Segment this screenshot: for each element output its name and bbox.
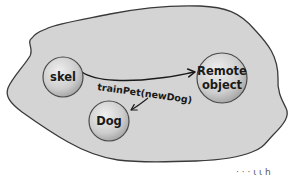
node-skel[interactable]: skel (43, 57, 83, 97)
skel-label: skel (50, 70, 76, 84)
node-dog[interactable]: Dog (89, 101, 129, 141)
cropped-caption-fragment: · · · ι ι h (236, 167, 271, 176)
diagram-canvas: trainPet(newDog) skel Remote object Dog … (0, 0, 294, 176)
remote-object-label-line2: object (202, 78, 243, 92)
remote-object-label-line1: Remote (197, 64, 247, 78)
node-remote-object[interactable]: Remote object (197, 53, 247, 103)
dog-label: Dog (96, 114, 122, 128)
